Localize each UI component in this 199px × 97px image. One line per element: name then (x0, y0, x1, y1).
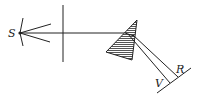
source-rays (20, 18, 51, 46)
label-violet: V (155, 78, 163, 89)
violet-ray (128, 34, 170, 83)
prism (106, 20, 137, 60)
source-point (18, 31, 21, 34)
optics-diagram (0, 0, 199, 97)
diagram-canvas: S V R (0, 0, 199, 97)
red-ray (133, 35, 178, 77)
label-red: R (176, 64, 184, 75)
label-source: S (8, 28, 16, 39)
